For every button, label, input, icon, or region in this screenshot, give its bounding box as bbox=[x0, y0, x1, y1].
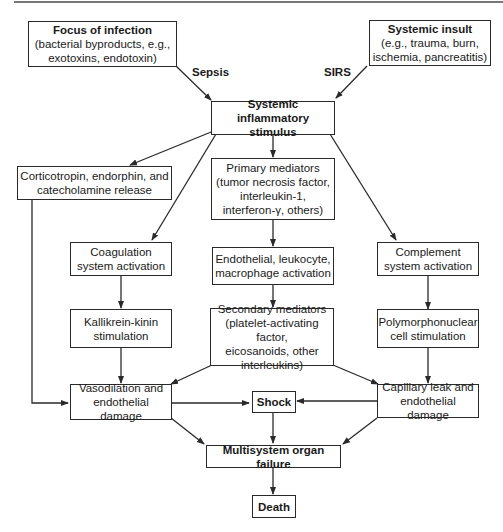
coag-line-1: Coagulation bbox=[90, 245, 151, 259]
primary-line-3: interleukin-1, bbox=[240, 189, 306, 203]
complement-box: Complement system activation bbox=[377, 242, 479, 276]
capillary-line-1: Capillary leak and bbox=[382, 380, 473, 394]
shock-box: Shock bbox=[252, 391, 296, 413]
endo-line-2: macrophage activation bbox=[215, 266, 331, 280]
primary-line-4: interferon-γ, others) bbox=[223, 203, 323, 217]
secondary-line-1: Secondary mediators bbox=[218, 302, 327, 316]
stimulus-line-1: Systemic inflammatory bbox=[212, 97, 334, 125]
secondary-line-3: eicosanoids, other bbox=[225, 344, 318, 358]
vaso-line-2: endothelial damage bbox=[71, 395, 171, 423]
multisystem-organ-failure-box: Multisystem organ failure bbox=[206, 445, 341, 468]
coag-line-2: system activation bbox=[77, 259, 165, 273]
secondary-mediators-box: Secondary mediators (platelet-activating… bbox=[210, 308, 334, 366]
primary-line-2: (tumor necrosis factor, bbox=[216, 175, 330, 189]
insult-line-1: (e.g., trauma, burn, bbox=[381, 36, 479, 50]
secondary-line-4: interleukins) bbox=[241, 358, 303, 372]
pmn-line-1: Polymorphonuclear bbox=[378, 315, 477, 329]
systemic-inflammatory-stimulus-box: Systemic inflammatory stimulus bbox=[211, 101, 335, 135]
cortico-line-2: catecholamine release bbox=[37, 183, 152, 197]
insult-line-2: ischemia, pancreatitis) bbox=[373, 50, 487, 64]
focus-line-1: (bacterial byproducts, e.g., bbox=[35, 37, 171, 51]
complement-line-1: Complement bbox=[395, 245, 460, 259]
endo-line-1: Endothelial, leukocyte, bbox=[215, 252, 330, 266]
vaso-line-1: Vasodilation and bbox=[79, 381, 163, 395]
death-box: Death bbox=[252, 495, 296, 518]
mof-label: Multisystem organ failure bbox=[207, 443, 340, 471]
focus-of-infection-box: Focus of infection (bacterial byproducts… bbox=[28, 21, 177, 67]
endothelial-activation-box: Endothelial, leukocyte, macrophage activ… bbox=[212, 247, 334, 285]
corticotropin-box: Corticotropin, endorphin, and catecholam… bbox=[17, 166, 172, 200]
polymorphonuclear-box: Polymorphonuclear cell stimulation bbox=[377, 309, 479, 348]
kallikrein-line-1: Kallikrein-kinin bbox=[84, 315, 158, 329]
kallikrein-line-2: stimulation bbox=[94, 329, 149, 343]
focus-title: Focus of infection bbox=[53, 23, 152, 37]
pmn-line-2: cell stimulation bbox=[390, 329, 465, 343]
shock-label: Shock bbox=[257, 395, 292, 409]
sepsis-label: Sepsis bbox=[192, 66, 229, 78]
vasodilation-box: Vasodilation and endothelial damage bbox=[70, 384, 172, 420]
kallikrein-box: Kallikrein-kinin stimulation bbox=[70, 309, 172, 348]
capillary-leak-box: Capillary leak and endothelial damage bbox=[377, 384, 479, 418]
death-label: Death bbox=[258, 500, 290, 514]
sirs-label: SIRS bbox=[324, 66, 351, 78]
primary-line-1: Primary mediators bbox=[226, 161, 319, 175]
insult-title: Systemic insult bbox=[388, 22, 472, 36]
primary-mediators-box: Primary mediators (tumor necrosis factor… bbox=[211, 158, 335, 220]
focus-line-2: exotoxins, endotoxin) bbox=[48, 51, 157, 65]
stimulus-line-2: stimulus bbox=[249, 125, 296, 139]
coagulation-box: Coagulation system activation bbox=[70, 242, 172, 276]
capillary-line-2: endothelial damage bbox=[378, 394, 478, 422]
cortico-line-1: Corticotropin, endorphin, and bbox=[20, 169, 168, 183]
secondary-line-2: (platelet-activating factor, bbox=[211, 316, 333, 344]
complement-line-2: system activation bbox=[384, 259, 472, 273]
systemic-insult-box: Systemic insult (e.g., trauma, burn, isc… bbox=[369, 20, 491, 66]
